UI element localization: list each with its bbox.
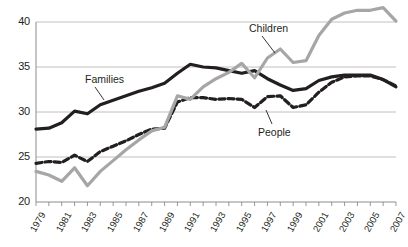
y-axis-label-40: 40 (8, 15, 30, 27)
y-axis-label-20: 20 (8, 195, 30, 207)
leader-line-families (95, 87, 104, 100)
series-path-people (36, 76, 396, 163)
series-label-children: Children (249, 22, 288, 34)
y-axis-label-25: 25 (8, 150, 30, 162)
series-label-families: Families (85, 73, 124, 85)
series-lines (36, 8, 396, 186)
gridlines (36, 22, 396, 157)
y-axis-label-35: 35 (8, 60, 30, 72)
y-axis-label-30: 30 (8, 105, 30, 117)
leader-line-children (262, 36, 275, 53)
series-label-people: People (258, 126, 291, 138)
x-axis-ticks (36, 202, 396, 206)
